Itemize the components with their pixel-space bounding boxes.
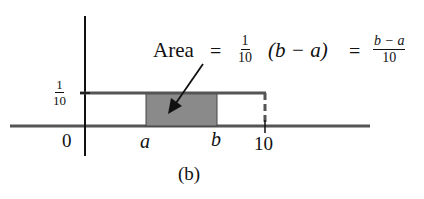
formula-fraction-1-numerator: 1 — [241, 34, 250, 50]
x-label-a: a — [140, 131, 150, 151]
formula-fraction-2-denominator: 10 — [382, 50, 396, 65]
formula-equals-1: = — [210, 41, 221, 61]
x-label-b: b — [211, 129, 221, 149]
formula-fraction-2-numerator: b − a — [373, 34, 405, 50]
y-tick-label: 1 10 — [53, 78, 66, 107]
formula-fraction-2: b − a 10 — [373, 34, 405, 65]
formula-middle-term: (b − a) — [268, 40, 328, 61]
y-tick-label-denominator: 10 — [53, 93, 66, 107]
x-label-origin: 0 — [62, 131, 72, 150]
x-label-ten: 10 — [254, 134, 273, 153]
formula-fraction-1-denominator: 10 — [238, 50, 252, 65]
figure-caption: (b) — [178, 164, 200, 183]
y-tick-label-numerator: 1 — [55, 78, 64, 93]
shaded-area-rect — [146, 93, 217, 126]
formula-area-label: Area — [153, 40, 194, 61]
formula-fraction-1: 1 10 — [238, 34, 252, 65]
formula-equals-2: = — [349, 41, 360, 61]
